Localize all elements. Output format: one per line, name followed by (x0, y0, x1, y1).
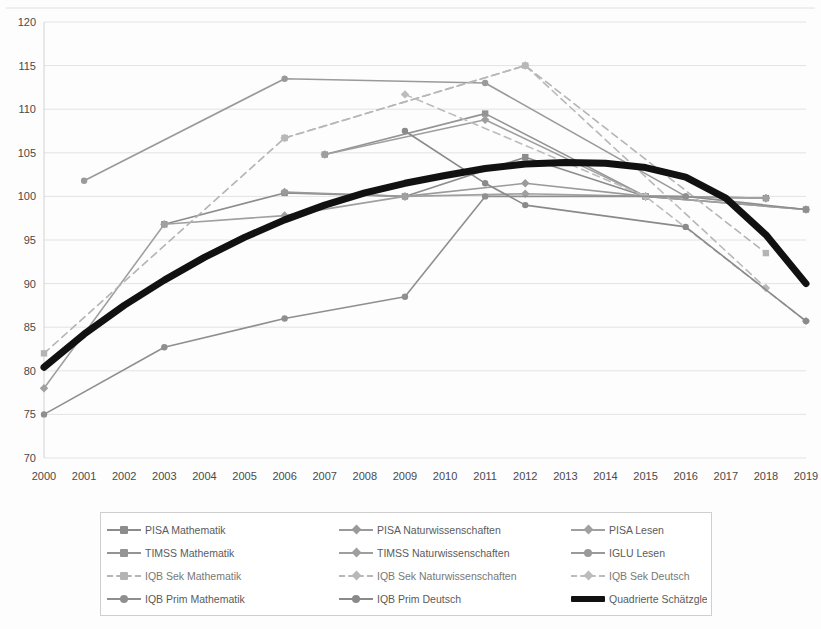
legend-label: IQB Prim Deutsch (377, 593, 461, 605)
data-point-marker (81, 178, 87, 184)
legend-item-pisa-naturwissenschaften[interactable]: PISA Naturwissenschaften (339, 524, 571, 536)
data-point-marker (41, 350, 47, 356)
x-axis-tick-label: 2001 (72, 470, 96, 482)
legend-marker-square-icon (120, 549, 128, 557)
legend-item-quadrierte-sch-tzgleichung[interactable]: Quadrierte Schätzgleichung (571, 593, 707, 605)
legend-swatch-iqb-prim-deutsch (339, 593, 373, 605)
y-axis-tick-label: 100 (18, 190, 36, 202)
y-axis-tick-label: 95 (24, 234, 36, 246)
data-point-marker (161, 344, 167, 350)
y-axis-tick-label: 90 (24, 278, 36, 290)
data-point-marker (41, 411, 47, 417)
legend-marker-diamond-icon (583, 571, 593, 581)
legend-label: TIMSS Mathematik (145, 547, 234, 559)
x-axis-tick-labels: 2000200120022003200420052006200720082009… (32, 470, 818, 482)
legend-marker-circle-icon (584, 549, 592, 557)
legend-label: PISA Lesen (609, 524, 664, 536)
y-axis-tick-label: 70 (24, 452, 36, 464)
x-axis-tick-label: 2018 (754, 470, 778, 482)
x-axis-tick-label: 2017 (714, 470, 738, 482)
series-line-quadrierte-sch-tzgleichung (44, 162, 806, 367)
data-point-marker (521, 179, 529, 187)
series-iqb-sek-mathematik (41, 62, 769, 356)
legend-item-pisa-lesen[interactable]: PISA Lesen (571, 524, 707, 536)
legend-marker-square-icon (120, 572, 128, 580)
x-axis-tick-label: 2002 (112, 470, 136, 482)
legend-item-iqb-prim-mathematik[interactable]: IQB Prim Mathematik (107, 593, 339, 605)
x-axis-tick-label: 2016 (673, 470, 697, 482)
data-point-marker (803, 318, 809, 324)
legend-swatch-timss-naturwissenschaften (339, 547, 373, 559)
y-axis-tick-label: 115 (18, 60, 36, 72)
data-point-marker (401, 90, 409, 98)
legend-label: IQB Sek Mathematik (145, 570, 241, 582)
legend-marker-diamond-icon (583, 525, 593, 535)
x-axis-tick-label: 2010 (433, 470, 457, 482)
data-point-marker (522, 202, 528, 208)
legend-label: Quadrierte Schätzgleichung (609, 593, 707, 605)
x-axis-tick-label: 2005 (232, 470, 256, 482)
legend-item-iqb-sek-naturwissenschaften[interactable]: IQB Sek Naturwissenschaften (339, 570, 571, 582)
x-axis-tick-label: 2000 (32, 470, 56, 482)
data-point-marker (281, 75, 287, 81)
legend-item-timss-naturwissenschaften[interactable]: TIMSS Naturwissenschaften (339, 547, 571, 559)
data-series-group (40, 61, 810, 417)
legend-item-iglu-lesen[interactable]: IGLU Lesen (571, 547, 707, 559)
legend-grid: PISA MathematikPISA NaturwissenschaftenP… (107, 518, 707, 610)
legend-label: IGLU Lesen (609, 547, 665, 559)
legend-label: PISA Naturwissenschaften (377, 524, 501, 536)
data-point-marker (402, 293, 408, 299)
legend-swatch-pisa-lesen (571, 524, 605, 536)
x-axis-tick-label: 2004 (192, 470, 216, 482)
legend-swatch-quadrierte-sch-tzgleichung (571, 593, 605, 605)
y-axis-tick-label: 110 (18, 103, 36, 115)
chart-figure: 120115110105100959085807570 200020012002… (0, 0, 821, 629)
x-axis-tick-label: 2013 (553, 470, 577, 482)
data-point-marker (482, 193, 488, 199)
legend-marker-square-icon (120, 526, 128, 534)
legend-marker-diamond-icon (351, 548, 361, 558)
data-point-marker (763, 250, 769, 256)
legend-swatch-pisa-naturwissenschaften (339, 524, 373, 536)
data-point-marker (402, 128, 408, 134)
legend-item-iqb-prim-deutsch[interactable]: IQB Prim Deutsch (339, 593, 571, 605)
data-point-marker (482, 180, 488, 186)
legend-line-sample (571, 596, 605, 602)
legend-marker-circle-icon (352, 595, 360, 603)
series-iqb-prim-mathematik (41, 193, 809, 417)
legend-label: IQB Sek Naturwissenschaften (377, 570, 516, 582)
legend-item-iqb-sek-mathematik[interactable]: IQB Sek Mathematik (107, 570, 339, 582)
legend-marker-diamond-icon (351, 571, 361, 581)
legend-label: TIMSS Naturwissenschaften (377, 547, 509, 559)
series-iqb-prim-deutsch (402, 128, 809, 324)
chart-legend: PISA MathematikPISA NaturwissenschaftenP… (100, 512, 712, 616)
y-axis-tick-label: 120 (18, 16, 36, 28)
legend-label: IQB Sek Deutsch (609, 570, 690, 582)
series-line-iqb-prim-mathematik (44, 196, 806, 414)
series-iqb-sek-naturwissenschaften (280, 61, 770, 292)
x-axis-tick-label: 2015 (633, 470, 657, 482)
series-line-iglu-lesen (84, 79, 686, 197)
series-pisa-mathematik (161, 154, 769, 228)
legend-label: IQB Prim Mathematik (145, 593, 245, 605)
legend-item-iqb-sek-deutsch[interactable]: IQB Sek Deutsch (571, 570, 707, 582)
legend-swatch-iqb-prim-mathematik (107, 593, 141, 605)
series-quadrierte-sch-tzgleichung (44, 162, 806, 367)
legend-swatch-iglu-lesen (571, 547, 605, 559)
legend-item-pisa-mathematik[interactable]: PISA Mathematik (107, 524, 339, 536)
legend-swatch-iqb-sek-mathematik (107, 570, 141, 582)
x-axis-tick-label: 2007 (312, 470, 336, 482)
y-axis-tick-label: 80 (24, 365, 36, 377)
series-line-iqb-sek-naturwissenschaften (285, 66, 766, 288)
x-axis-tick-label: 2006 (272, 470, 296, 482)
y-axis-tick-label: 75 (24, 408, 36, 420)
legend-swatch-timss-mathematik (107, 547, 141, 559)
legend-item-timss-mathematik[interactable]: TIMSS Mathematik (107, 547, 339, 559)
data-point-marker (682, 224, 688, 230)
data-point-marker (682, 193, 688, 199)
y-axis-tick-label: 105 (18, 147, 36, 159)
legend-marker-circle-icon (120, 595, 128, 603)
x-axis-tick-label: 2008 (353, 470, 377, 482)
x-axis-tick-label: 2011 (473, 470, 497, 482)
data-point-marker (482, 80, 488, 86)
